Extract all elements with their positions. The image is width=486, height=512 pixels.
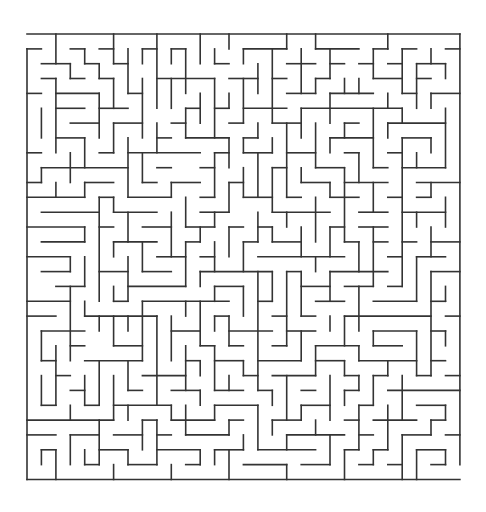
maze-board xyxy=(0,0,486,512)
